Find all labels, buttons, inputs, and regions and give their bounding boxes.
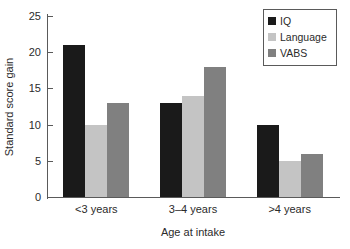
y-axis-tick-label: 25 xyxy=(0,10,41,22)
legend-swatch-icon xyxy=(268,17,276,25)
x-axis-category-label: 3–4 years xyxy=(143,203,243,215)
x-axis-category-label: <3 years xyxy=(46,203,146,215)
bar-language xyxy=(182,96,204,197)
legend-swatch-icon xyxy=(268,33,276,41)
bar-language xyxy=(85,125,107,197)
bar-group xyxy=(63,16,129,197)
bar-vabs xyxy=(107,103,129,197)
y-axis-tick-label: 20 xyxy=(0,46,41,58)
y-axis-tick-label: 5 xyxy=(0,155,41,167)
legend: IQLanguageVABS xyxy=(263,9,337,66)
legend-item: Language xyxy=(268,29,332,45)
bar-language xyxy=(279,161,301,197)
legend-item: VABS xyxy=(268,45,332,61)
x-axis-category-label: >4 years xyxy=(240,203,340,215)
bar-vabs xyxy=(301,154,323,197)
y-axis-tick-label: 15 xyxy=(0,82,41,94)
bar-chart-figure: Standard score gain 0510152025 <3 years3… xyxy=(0,0,350,249)
y-axis-tick-label: 10 xyxy=(0,119,41,131)
legend-label: Language xyxy=(280,31,327,43)
legend-swatch-icon xyxy=(268,49,276,57)
x-axis-spine xyxy=(47,197,340,198)
legend-label: VABS xyxy=(280,47,307,59)
bar-vabs xyxy=(204,67,226,197)
bar-iq xyxy=(160,103,182,197)
bar-group xyxy=(160,16,226,197)
y-axis-tick-label: 0 xyxy=(0,191,41,203)
legend-label: IQ xyxy=(280,15,291,27)
x-axis-title: Age at intake xyxy=(48,226,338,238)
bar-iq xyxy=(257,125,279,197)
legend-item: IQ xyxy=(268,13,332,29)
bar-iq xyxy=(63,45,85,197)
